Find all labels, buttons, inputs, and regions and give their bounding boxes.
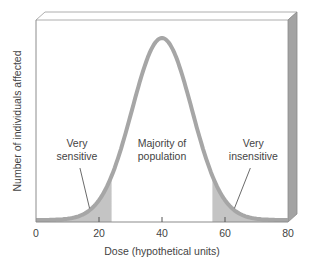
x-tick-label: 40	[156, 227, 168, 239]
distribution-curve	[36, 38, 288, 220]
shaded-tail-regions	[36, 176, 288, 222]
dose-response-chart: 020406080 VerysensitiveMajority ofpopula…	[0, 0, 313, 267]
x-tick-label: 60	[219, 227, 231, 239]
x-axis-label: Dose (hypothetical units)	[104, 245, 220, 257]
x-tick-label: 0	[33, 227, 39, 239]
frame-top-bevel	[36, 12, 297, 20]
x-tick-label: 20	[93, 227, 105, 239]
annotation-label: sensitive	[57, 150, 98, 162]
annotation-label: population	[138, 150, 187, 162]
frame-side-panel	[288, 12, 297, 222]
x-tick-label: 80	[282, 227, 294, 239]
annotation-label: Very	[66, 137, 88, 149]
annotation-label: Very	[243, 137, 265, 149]
y-axis-label: Number of individuals affected	[11, 50, 23, 191]
annotation-label: Majority of	[138, 137, 187, 149]
annotation-leader-line	[80, 168, 90, 208]
annotation-leader-line	[234, 168, 250, 208]
annotation-label: insensitive	[229, 150, 278, 162]
annotations: VerysensitiveMajority ofpopulationVeryin…	[57, 137, 278, 208]
